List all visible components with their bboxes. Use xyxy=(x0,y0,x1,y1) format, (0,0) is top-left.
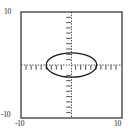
chart-figure: 10 -10 -10 10 xyxy=(0,0,132,132)
y-axis-min-label: -10 xyxy=(1,111,10,119)
y-axis-max-label: 10 xyxy=(4,8,11,16)
x-axis-min-label: -10 xyxy=(15,120,24,128)
x-axis-max-label: 10 xyxy=(114,120,121,128)
plot-canvas xyxy=(0,0,132,132)
